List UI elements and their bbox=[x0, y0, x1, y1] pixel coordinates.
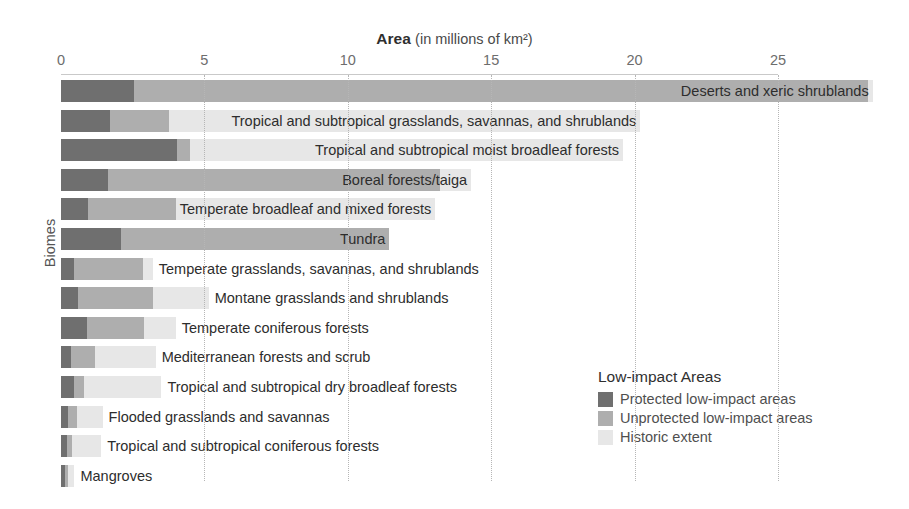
legend-items: Protected low-impact areasUnprotected lo… bbox=[598, 391, 898, 445]
legend-swatch-icon bbox=[598, 392, 613, 407]
bar-label: Tropical and subtropical moist broadleaf… bbox=[315, 140, 619, 160]
bar-segment-historic[interactable] bbox=[68, 465, 74, 487]
bar-segment-unprotected[interactable] bbox=[78, 287, 153, 309]
bar-segment-historic[interactable] bbox=[77, 406, 103, 428]
bar-segment-protected[interactable] bbox=[61, 198, 88, 220]
bar-label: Temperate coniferous forests bbox=[182, 318, 369, 338]
bar-row[interactable]: Deserts and xeric shrublands bbox=[0, 80, 909, 102]
bar-segment-unprotected[interactable] bbox=[74, 376, 84, 398]
bar-segment-protected[interactable] bbox=[61, 376, 74, 398]
bar-segment-unprotected[interactable] bbox=[71, 346, 95, 368]
bar-segment-historic[interactable] bbox=[84, 376, 161, 398]
bar-label: Tundra bbox=[340, 229, 385, 249]
bar-segment-historic[interactable] bbox=[868, 80, 872, 102]
bar-segment-historic[interactable] bbox=[144, 317, 176, 339]
bar-row[interactable]: Tropical and subtropical grasslands, sav… bbox=[0, 110, 909, 132]
gridline bbox=[778, 75, 779, 481]
bar-row[interactable]: Mangroves bbox=[0, 465, 909, 487]
bar-label: Deserts and xeric shrublands bbox=[681, 81, 869, 101]
gridline bbox=[635, 75, 636, 481]
bar-label: Flooded grasslands and savannas bbox=[109, 407, 330, 427]
bar-label: Temperate broadleaf and mixed forests bbox=[180, 199, 431, 219]
bar-segment-protected[interactable] bbox=[61, 228, 121, 250]
bar-segment-protected[interactable] bbox=[61, 287, 78, 309]
bar-segment-protected[interactable] bbox=[61, 258, 74, 280]
bar-segment-protected[interactable] bbox=[61, 80, 134, 102]
legend-item[interactable]: Historic extent bbox=[598, 429, 898, 445]
gridline bbox=[348, 75, 349, 481]
bar-segment-protected[interactable] bbox=[61, 139, 177, 161]
bar-segment-unprotected[interactable] bbox=[177, 139, 190, 161]
bar-segment-protected[interactable] bbox=[61, 169, 108, 191]
bar-segment-protected[interactable] bbox=[61, 317, 87, 339]
bar-row[interactable]: Tropical and subtropical moist broadleaf… bbox=[0, 139, 909, 161]
bar-segment-unprotected[interactable] bbox=[74, 258, 143, 280]
bar-segment-unprotected[interactable] bbox=[110, 110, 169, 132]
chart-container: Area (in millions of km²) 0510152025 Bio… bbox=[0, 0, 909, 509]
bar-label: Tropical and subtropical dry broadleaf f… bbox=[167, 377, 457, 397]
bar-label: Montane grasslands and shrublands bbox=[215, 288, 449, 308]
bar-label: Tropical and subtropical grasslands, sav… bbox=[231, 111, 636, 131]
bar-row[interactable]: Mediterranean forests and scrub bbox=[0, 346, 909, 368]
bar-label: Mediterranean forests and scrub bbox=[162, 347, 371, 367]
bar-segment-protected[interactable] bbox=[61, 346, 71, 368]
bar-row[interactable]: Temperate grasslands, savannas, and shru… bbox=[0, 258, 909, 280]
bar-row[interactable]: Boreal forests/taiga bbox=[0, 169, 909, 191]
bar-label: Mangroves bbox=[80, 466, 152, 486]
bar-segment-protected[interactable] bbox=[61, 406, 68, 428]
legend: Low-impact Areas Protected low-impact ar… bbox=[598, 368, 898, 448]
bar-segment-historic[interactable] bbox=[95, 346, 155, 368]
legend-title: Low-impact Areas bbox=[598, 368, 898, 386]
legend-item[interactable]: Unprotected low-impact areas bbox=[598, 410, 898, 426]
bar-segment-unprotected[interactable] bbox=[87, 317, 144, 339]
legend-swatch-icon bbox=[598, 430, 613, 445]
legend-swatch-icon bbox=[598, 411, 613, 426]
legend-item-label: Unprotected low-impact areas bbox=[620, 410, 813, 426]
bar-row[interactable]: Tundra bbox=[0, 228, 909, 250]
bar-label: Temperate grasslands, savannas, and shru… bbox=[159, 259, 479, 279]
bar-segment-historic[interactable] bbox=[153, 287, 209, 309]
bar-segment-historic[interactable] bbox=[143, 258, 153, 280]
bar-row[interactable]: Temperate broadleaf and mixed forests bbox=[0, 198, 909, 220]
legend-item-label: Protected low-impact areas bbox=[620, 391, 796, 407]
gridline bbox=[204, 75, 205, 481]
bar-label: Tropical and subtropical coniferous fore… bbox=[107, 436, 379, 456]
bar-row[interactable]: Montane grasslands and shrublands bbox=[0, 287, 909, 309]
bar-segment-historic[interactable] bbox=[72, 435, 101, 457]
bar-row[interactable]: Temperate coniferous forests bbox=[0, 317, 909, 339]
bar-segment-unprotected[interactable] bbox=[68, 406, 77, 428]
bar-segment-protected[interactable] bbox=[61, 110, 110, 132]
gridline bbox=[491, 75, 492, 481]
bar-segment-unprotected[interactable] bbox=[88, 198, 175, 220]
legend-item[interactable]: Protected low-impact areas bbox=[598, 391, 898, 407]
bar-label: Boreal forests/taiga bbox=[342, 170, 467, 190]
